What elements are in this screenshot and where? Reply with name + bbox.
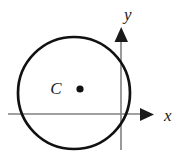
circle-shape bbox=[18, 37, 130, 149]
y-axis-label: y bbox=[122, 5, 132, 24]
center-point-label: C bbox=[50, 79, 62, 98]
x-axis-arrowhead bbox=[140, 108, 154, 121]
x-axis-label: x bbox=[163, 106, 172, 125]
y-axis-arrowhead bbox=[115, 27, 129, 42]
figure-container: C y x bbox=[0, 0, 184, 154]
center-point-dot bbox=[76, 85, 83, 92]
geometry-diagram: C y x bbox=[0, 0, 184, 154]
